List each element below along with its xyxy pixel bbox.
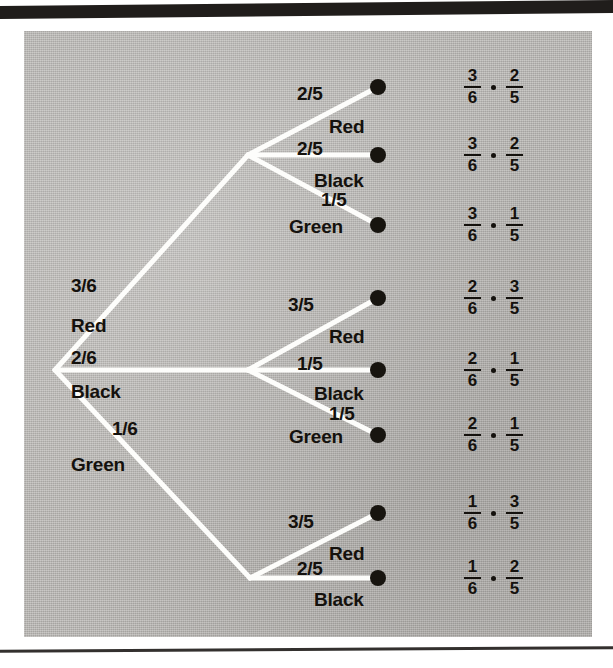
fraction-first: 1 6 xyxy=(464,493,481,533)
fraction-first: 2 6 xyxy=(464,415,481,455)
branch-label-root-black-color: Black xyxy=(71,382,121,401)
fraction-denominator: 5 xyxy=(507,226,522,245)
branch-label-red-green-prob: 1/5 xyxy=(321,190,347,209)
terminal-node-dot xyxy=(370,79,386,95)
branch-label-green-black-color: Black xyxy=(314,590,364,609)
fraction-second: 1 5 xyxy=(506,415,523,455)
branch-label-red-red-color: Red xyxy=(329,117,364,136)
fraction-denominator: 5 xyxy=(507,88,522,107)
branch-label-black-red-prob: 3/5 xyxy=(288,295,314,314)
fraction-numerator: 3 xyxy=(507,493,522,512)
outcome-expression: 2 6 1 5 xyxy=(464,415,523,455)
terminal-node-dot xyxy=(370,147,386,163)
fraction-numerator: 2 xyxy=(465,350,480,369)
fraction-denominator: 6 xyxy=(465,579,480,598)
branch-label-root-green-color: Green xyxy=(71,455,125,474)
branch-label-black-green-prob: 1/5 xyxy=(329,404,355,423)
outcome-expression: 3 6 2 5 xyxy=(464,135,523,175)
fraction-numerator: 2 xyxy=(507,558,522,577)
fraction-first: 3 6 xyxy=(464,135,481,175)
branch-label-black-black-color: Black xyxy=(314,384,364,403)
branch-label-black-black-prob: 1/5 xyxy=(297,354,323,373)
terminal-node-dot xyxy=(370,217,386,233)
multiply-dot-icon xyxy=(491,368,496,373)
fraction-numerator: 3 xyxy=(507,278,522,297)
page-top-rule xyxy=(0,0,613,19)
fraction-denominator: 5 xyxy=(507,579,522,598)
outcome-expression: 3 6 2 5 xyxy=(464,67,523,107)
multiply-dot-icon xyxy=(491,223,496,228)
branch-label-root-red-color: Red xyxy=(71,316,106,335)
fraction-denominator: 6 xyxy=(465,371,480,390)
fraction-first: 2 6 xyxy=(464,278,481,318)
outcome-expression: 1 6 2 5 xyxy=(464,558,523,598)
fraction-numerator: 3 xyxy=(465,205,480,224)
figure-panel: 3/6 Red 2/6 Black 1/6 Green 2/5 Red 2/5 … xyxy=(24,31,592,637)
fraction-denominator: 5 xyxy=(507,156,522,175)
fraction-second: 1 5 xyxy=(506,205,523,245)
outcome-expression: 2 6 1 5 xyxy=(464,350,523,390)
terminal-node-dot xyxy=(370,427,386,443)
outcome-expression: 1 6 3 5 xyxy=(464,493,523,533)
fraction-second: 3 5 xyxy=(506,278,523,318)
fraction-first: 2 6 xyxy=(464,350,481,390)
multiply-dot-icon xyxy=(491,433,496,438)
fraction-numerator: 2 xyxy=(507,67,522,86)
branch-label-green-red-prob: 3/5 xyxy=(288,512,314,531)
fraction-second: 2 5 xyxy=(506,135,523,175)
branch-label-black-green-color: Green xyxy=(289,427,343,446)
terminal-node-dot xyxy=(370,290,386,306)
branch-root-red xyxy=(55,155,248,370)
fraction-denominator: 6 xyxy=(465,514,480,533)
fraction-first: 3 6 xyxy=(464,67,481,107)
branch-label-red-green-color: Green xyxy=(289,217,343,236)
branch-label-red-red-prob: 2/5 xyxy=(297,84,323,103)
page-bottom-rule xyxy=(0,646,613,653)
fraction-denominator: 6 xyxy=(465,436,480,455)
fraction-second: 1 5 xyxy=(506,350,523,390)
fraction-denominator: 6 xyxy=(465,88,480,107)
outcome-expression: 2 6 3 5 xyxy=(464,278,523,318)
branch-label-red-black-prob: 2/5 xyxy=(297,139,323,158)
fraction-second: 2 5 xyxy=(506,67,523,107)
fraction-denominator: 6 xyxy=(465,226,480,245)
branch-label-red-black-color: Black xyxy=(314,171,364,190)
fraction-denominator: 6 xyxy=(465,156,480,175)
multiply-dot-icon xyxy=(491,85,496,90)
multiply-dot-icon xyxy=(491,576,496,581)
fraction-second: 2 5 xyxy=(506,558,523,598)
fraction-denominator: 5 xyxy=(507,514,522,533)
terminal-node-dot xyxy=(370,362,386,378)
multiply-dot-icon xyxy=(491,296,496,301)
branch-label-root-green-prob: 1/6 xyxy=(112,419,138,438)
terminal-node-dot xyxy=(370,505,386,521)
terminal-node-dot xyxy=(370,570,386,586)
fraction-second: 3 5 xyxy=(506,493,523,533)
scanned-page: 3/6 Red 2/6 Black 1/6 Green 2/5 Red 2/5 … xyxy=(0,0,613,668)
fraction-numerator: 2 xyxy=(507,135,522,154)
fraction-numerator: 1 xyxy=(507,415,522,434)
branch-label-root-red-prob: 3/6 xyxy=(71,276,97,295)
branch-label-root-black-prob: 2/6 xyxy=(71,348,97,367)
fraction-first: 1 6 xyxy=(464,558,481,598)
fraction-denominator: 5 xyxy=(507,371,522,390)
tree-branches xyxy=(24,31,592,637)
fraction-denominator: 5 xyxy=(507,436,522,455)
multiply-dot-icon xyxy=(491,511,496,516)
fraction-first: 3 6 xyxy=(464,205,481,245)
fraction-numerator: 3 xyxy=(465,67,480,86)
fraction-numerator: 1 xyxy=(465,493,480,512)
fraction-denominator: 5 xyxy=(507,299,522,318)
fraction-numerator: 1 xyxy=(507,205,522,224)
branch-label-green-black-prob: 2/5 xyxy=(297,559,323,578)
multiply-dot-icon xyxy=(491,153,496,158)
branch-label-green-red-color: Red xyxy=(329,544,364,563)
fraction-numerator: 3 xyxy=(465,135,480,154)
fraction-numerator: 1 xyxy=(507,350,522,369)
fraction-numerator: 1 xyxy=(465,558,480,577)
fraction-numerator: 2 xyxy=(465,278,480,297)
branch-label-black-red-color: Red xyxy=(329,327,364,346)
fraction-denominator: 6 xyxy=(465,299,480,318)
fraction-numerator: 2 xyxy=(465,415,480,434)
outcome-expression: 3 6 1 5 xyxy=(464,205,523,245)
